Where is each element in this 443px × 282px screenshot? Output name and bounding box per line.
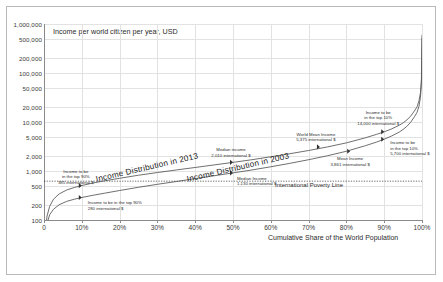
x-axis-tick <box>233 220 234 223</box>
y-axis-tick-label: 1,000,000 <box>14 21 42 28</box>
annotation-top-10-2013: Income to bein the top 10%14,000 interna… <box>357 110 399 127</box>
annotation-marker <box>79 195 82 200</box>
y-axis-tick-label: 500 <box>31 182 42 189</box>
annotation-text-line: 385 international $ <box>58 180 94 186</box>
annotation-text-line: 3,861 international $ <box>330 162 369 168</box>
annotation-marker <box>381 137 384 142</box>
x-axis-tick <box>422 220 423 223</box>
x-axis-tick <box>120 220 121 223</box>
y-axis-tick-label: 50,000 <box>22 84 42 91</box>
x-axis-tick-label: 90% <box>378 224 391 231</box>
annotation-top-10-2003: Income to bein the top 10%5,700 internat… <box>390 140 429 157</box>
annotation-text-line: 1,130 international $ <box>237 181 276 187</box>
annotation-marker <box>347 149 350 154</box>
annotation-text-line: Income to be <box>58 169 94 175</box>
x-axis-tick <box>346 220 347 223</box>
x-axis-tick-label: 60% <box>264 224 277 231</box>
annotation-mean-income-2003: Mean Income3,861 international $ <box>330 156 369 167</box>
y-axis-tick-label: 200,000 <box>19 55 42 62</box>
x-axis-tick <box>309 220 310 223</box>
x-axis-tick <box>44 220 45 223</box>
poverty-line-label: International Poverty Line <box>275 182 343 188</box>
y-axis-tick-label: 10,000 <box>22 119 42 126</box>
annotation-text-line: World Mean Income <box>296 132 335 138</box>
plot-area: 010%20%30%40%50%60%70%80%90%100% Income … <box>44 24 422 220</box>
x-axis-title: Cumulative Share of the World Population <box>268 234 398 241</box>
x-axis-tick-label: 40% <box>189 224 202 231</box>
annotation-text-line: 5,375 international $ <box>296 137 335 143</box>
annotation-text-line: 2,010 international $ <box>211 153 250 159</box>
annotation-world-mean-income: World Mean Income5,375 international $ <box>296 132 335 143</box>
series-line-2003 <box>45 38 422 220</box>
y-axis-tick-label: 200 <box>31 202 42 209</box>
annotation-text-line: Median income <box>211 147 250 153</box>
y-axis-tick-label: 1,000 <box>26 168 42 175</box>
x-axis-tick-label: 70% <box>302 224 315 231</box>
annotation-bottom-10-2003: Income to be in the top 90%280 internati… <box>88 200 142 211</box>
x-axis-tick-label: 20% <box>113 224 126 231</box>
annotation-text-line: 14,000 international $ <box>357 121 399 127</box>
y-axis-labels: 1002005001,0002,0005,00010,00020,00050,0… <box>0 24 42 220</box>
annotation-text-line: 280 international $ <box>88 206 142 212</box>
x-axis-tick <box>82 220 83 223</box>
y-axis-tick-label: 20,000 <box>22 104 42 111</box>
x-axis-tick-label: 100% <box>414 224 431 231</box>
x-axis-tick <box>384 220 385 223</box>
x-axis-tick <box>195 220 196 223</box>
annotation-marker <box>381 129 384 134</box>
annotation-median-2003: Median Income1,130 international $ <box>237 176 276 187</box>
y-axis-tick-label: 5,000 <box>26 133 42 140</box>
y-axis-tick-label: 100 <box>31 217 42 224</box>
gridline-vertical <box>422 24 423 220</box>
annotation-text-line: 5,700 international $ <box>390 151 429 157</box>
x-axis-tick <box>157 220 158 223</box>
x-axis-tick-label: 80% <box>340 224 353 231</box>
y-axis-tick-label: 500,000 <box>19 35 42 42</box>
series-line-2013 <box>45 35 422 220</box>
x-axis-tick-label: 50% <box>226 224 239 231</box>
y-axis-tick-label: 2,000 <box>26 153 42 160</box>
annotation-bottom-10-2013: Income to bein the top 90%385 internatio… <box>58 169 94 186</box>
chart-figure: Income per world citizen per year, USD 1… <box>0 0 443 282</box>
annotation-median-2013: Median income2,010 international $ <box>211 147 250 158</box>
x-axis-tick <box>271 220 272 223</box>
y-axis-tick-label: 100,000 <box>19 70 42 77</box>
x-axis-tick-label: 10% <box>75 224 88 231</box>
x-axis-tick-label: 0 <box>42 224 46 231</box>
x-axis-tick-label: 30% <box>151 224 164 231</box>
